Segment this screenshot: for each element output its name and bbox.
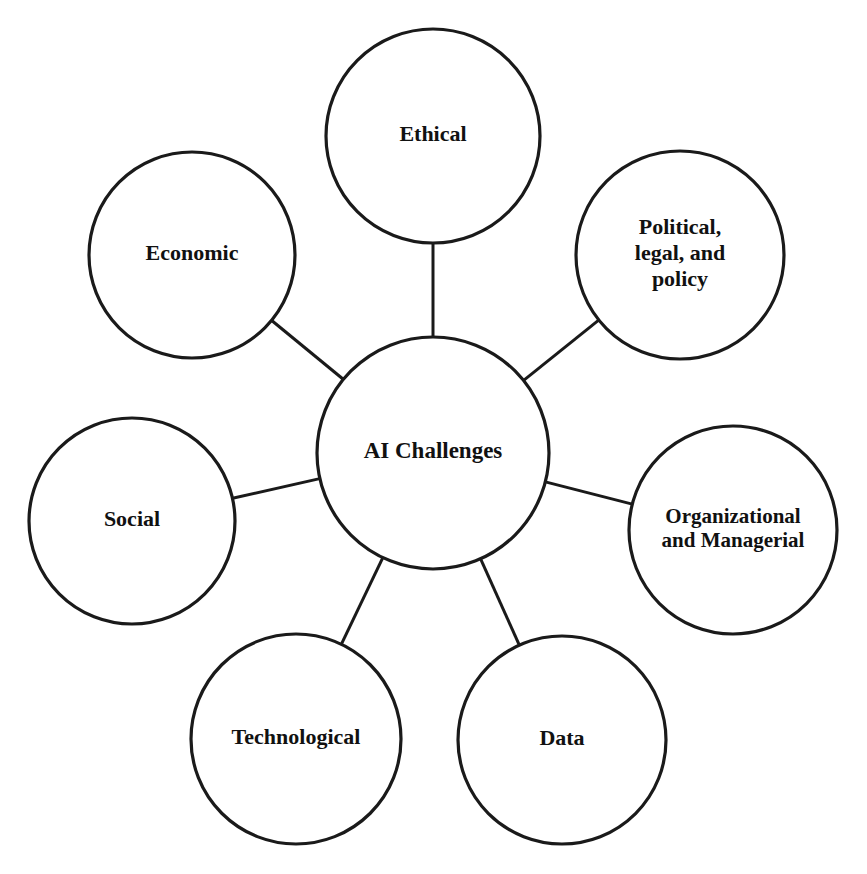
node-label-economic: Economic	[146, 240, 239, 265]
label-line: Ethical	[399, 121, 466, 146]
connector-center-to-technological	[341, 557, 383, 646]
connector-center-to-economic	[271, 320, 344, 380]
center-node-center[interactable]: AI Challenges	[317, 337, 549, 569]
node-label-organizational-managerial: Organizationaland Managerial	[662, 503, 805, 552]
label-line: legal, and	[635, 240, 725, 265]
connector-center-to-social	[231, 478, 320, 498]
node-layer: EthicalPolitical,legal, andpolicyOrganiz…	[29, 29, 837, 844]
label-line: policy	[652, 266, 708, 291]
center-node-label-center: AI Challenges	[364, 438, 503, 463]
label-line: Economic	[146, 240, 239, 265]
diagram-canvas: EthicalPolitical,legal, andpolicyOrganiz…	[0, 0, 867, 874]
connector-center-to-political-legal-policy	[523, 319, 600, 381]
connector-center-to-data	[480, 558, 520, 646]
label-line: and Managerial	[662, 528, 805, 552]
label-line: Technological	[232, 724, 361, 749]
label-line: Data	[539, 725, 584, 750]
node-organizational-managerial[interactable]: Organizationaland Managerial	[629, 426, 837, 634]
node-data[interactable]: Data	[458, 636, 666, 844]
node-economic[interactable]: Economic	[89, 152, 295, 358]
node-technological[interactable]: Technological	[191, 634, 401, 844]
node-label-technological: Technological	[232, 724, 361, 749]
node-label-social: Social	[104, 506, 160, 531]
node-label-data: Data	[539, 725, 584, 750]
label-line: AI Challenges	[364, 438, 503, 463]
node-ethical[interactable]: Ethical	[326, 29, 540, 243]
node-political-legal-policy[interactable]: Political,legal, andpolicy	[576, 151, 784, 359]
label-line: Social	[104, 506, 160, 531]
node-label-ethical: Ethical	[399, 121, 466, 146]
node-social[interactable]: Social	[29, 418, 235, 624]
label-line: Political,	[639, 214, 721, 239]
connector-center-to-organizational-managerial	[544, 482, 633, 505]
ai-challenges-concept-map: EthicalPolitical,legal, andpolicyOrganiz…	[0, 0, 867, 874]
label-line: Organizational	[665, 503, 800, 527]
